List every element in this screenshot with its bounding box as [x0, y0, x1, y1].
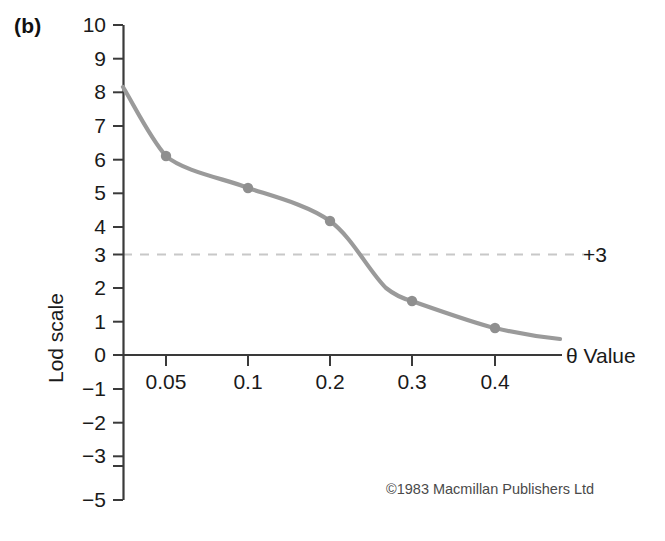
- y-tick-label: −3: [70, 444, 106, 468]
- y-axis-ticks: [113, 25, 123, 500]
- figure-panel-b: (b): [0, 0, 665, 541]
- y-tick-label: −5: [70, 488, 106, 512]
- y-tick-label: 6: [78, 148, 106, 172]
- copyright-notice: ©1983 Macmillan Publishers Ltd: [386, 481, 594, 497]
- x-tick-label: 0.3: [397, 370, 426, 394]
- x-tick-label: 0.4: [480, 370, 509, 394]
- y-axis-title: Lod scale: [44, 293, 68, 383]
- lod-score-curve: [123, 87, 560, 339]
- y-tick-label: 8: [78, 80, 106, 104]
- data-point: [407, 296, 417, 306]
- y-tick-label: 10: [78, 13, 106, 37]
- x-axis-ticks: [166, 355, 495, 366]
- y-tick-label: 3: [78, 243, 106, 267]
- y-tick-label: 5: [78, 181, 106, 205]
- y-tick-label: 4: [78, 215, 106, 239]
- x-tick-label: 0.1: [233, 370, 262, 394]
- x-tick-label: 0.05: [146, 370, 187, 394]
- x-tick-label: 0.2: [315, 370, 344, 394]
- y-tick-label: 0: [78, 343, 106, 367]
- data-point: [325, 216, 335, 226]
- threshold-label: +3: [583, 243, 607, 267]
- y-tick-label: 1: [78, 310, 106, 334]
- y-tick-label: −2: [70, 411, 106, 435]
- data-point: [243, 183, 253, 193]
- data-point: [490, 323, 500, 333]
- data-point: [161, 151, 171, 161]
- y-tick-label: 9: [78, 47, 106, 71]
- y-tick-label: 7: [78, 114, 106, 138]
- x-axis-title: θ Value: [566, 344, 636, 368]
- y-tick-label: −1: [70, 377, 106, 401]
- y-tick-label: 2: [78, 276, 106, 300]
